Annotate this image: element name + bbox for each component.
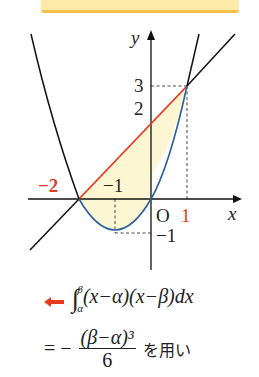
x-axis-arrow-icon	[233, 195, 242, 203]
origin-label: O	[156, 205, 170, 226]
graph: y x O 1 −2 −1 3 2 −1	[0, 0, 259, 270]
y-axis-arrow-icon	[147, 30, 155, 40]
tick-x-1: 1	[181, 205, 191, 226]
tick-x-neg1: −1	[103, 175, 123, 196]
fraction-denominator: 6	[102, 349, 112, 371]
fraction-numerator: (β−α)³	[79, 326, 136, 349]
formula-line-2: = − (β−α)³ 6 を用い	[44, 326, 191, 371]
integral-formula: ∫βα(x−α)(x−β)dx = − (β−α)³ 6 を用い	[0, 270, 259, 377]
tick-y-neg1: −1	[156, 225, 176, 246]
parabola-outer-right	[187, 34, 199, 86]
formula-suffix: を用い	[143, 341, 191, 360]
x-axis-label: x	[227, 203, 237, 224]
equals-minus: = −	[44, 337, 72, 359]
formula-line-1: ∫βα(x−α)(x−β)dx	[72, 284, 194, 314]
fraction: (β−α)³ 6	[79, 326, 136, 371]
line-outer-left	[30, 199, 79, 250]
y-axis-label: y	[129, 27, 140, 48]
shaded-area	[79, 86, 187, 230]
line-outer-right	[187, 34, 235, 86]
tick-y-2: 2	[134, 98, 144, 119]
tick-x-neg2: −2	[38, 175, 58, 196]
left-arrow-icon	[44, 297, 64, 307]
integrand: (x−α)(x−β)dx	[83, 285, 194, 307]
tick-y-3: 3	[134, 75, 144, 96]
